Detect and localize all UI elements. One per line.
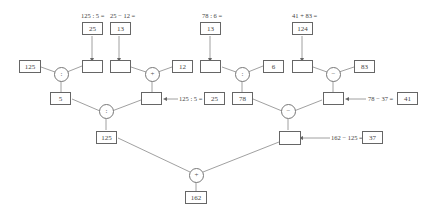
hint-box-3[interactable]: 37 xyxy=(362,131,383,144)
blank-box-f[interactable] xyxy=(323,92,344,105)
blank-box-d[interactable] xyxy=(292,60,313,73)
top-label-3: 78 : 6 = xyxy=(202,12,222,19)
operator-plus-2: + xyxy=(189,168,204,183)
top-box-4[interactable]: 124 xyxy=(292,22,313,35)
operator-minus-2: − xyxy=(281,104,296,119)
box-125-start[interactable]: 125 xyxy=(19,60,41,73)
top-box-3[interactable]: 13 xyxy=(200,22,221,35)
hint-box-1[interactable]: 25 xyxy=(204,92,225,105)
top-box-1[interactable]: 25 xyxy=(82,22,103,35)
operator-divide-2: : xyxy=(235,67,250,82)
box-6[interactable]: 6 xyxy=(263,60,284,73)
box-5[interactable]: 5 xyxy=(50,92,71,105)
result-box[interactable]: 162 xyxy=(185,191,207,204)
top-label-1: 125 : 5 = xyxy=(81,12,104,19)
hint-label-3: 162 − 125 = xyxy=(331,134,363,141)
top-box-2[interactable]: 13 xyxy=(110,22,131,35)
box-78[interactable]: 78 xyxy=(232,92,253,105)
blank-box-b[interactable] xyxy=(110,60,131,73)
hint-box-2[interactable]: 41 xyxy=(397,92,418,105)
blank-box-a[interactable] xyxy=(82,60,103,73)
blank-box-e[interactable] xyxy=(141,92,162,105)
hint-label-2: 78 − 37 = xyxy=(368,95,393,102)
operator-divide-3: : xyxy=(99,104,114,119)
blank-box-c[interactable] xyxy=(200,60,221,73)
top-label-2: 25 − 12 = xyxy=(110,12,135,19)
box-12[interactable]: 12 xyxy=(172,60,193,73)
blank-box-g[interactable] xyxy=(279,131,301,145)
operator-minus-1: − xyxy=(326,67,341,82)
hint-label-1: 125 : 5 = xyxy=(179,95,202,102)
top-label-4: 41 + 83 = xyxy=(292,12,317,19)
operator-divide-1: : xyxy=(54,67,69,82)
box-83[interactable]: 83 xyxy=(354,60,375,73)
operator-plus-1: + xyxy=(145,67,160,82)
box-125-mid[interactable]: 125 xyxy=(96,131,117,144)
